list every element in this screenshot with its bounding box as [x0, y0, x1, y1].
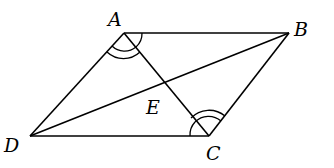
label-C: C: [206, 142, 221, 164]
angle-arc-A-inner: [112, 46, 136, 51]
angle-arc-C-left: [190, 122, 195, 136]
segment-DA: [30, 33, 124, 136]
label-A: A: [106, 8, 122, 30]
geometry-diagram: A B C D E: [0, 0, 334, 168]
label-E: E: [145, 96, 160, 118]
angle-arc-A-right: [136, 33, 142, 47]
angle-arc-C-inner: [195, 116, 221, 122]
angle-arc-A-outer: [107, 52, 140, 59]
label-D: D: [3, 134, 19, 156]
diagonal-BD: [30, 33, 289, 136]
label-B: B: [293, 18, 308, 40]
